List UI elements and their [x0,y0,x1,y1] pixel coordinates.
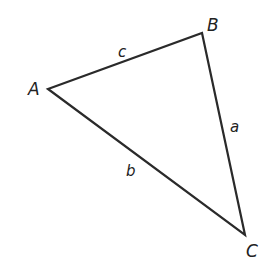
vertex-label-c: C [246,241,258,261]
side-label-b: b [126,162,136,180]
vertex-label-a: A [27,79,40,99]
triangle-diagram: A B C c a b [0,0,266,267]
vertex-label-b: B [207,15,219,35]
side-label-a: a [230,118,239,136]
triangle-abc [48,33,245,235]
side-label-c: c [118,43,127,61]
